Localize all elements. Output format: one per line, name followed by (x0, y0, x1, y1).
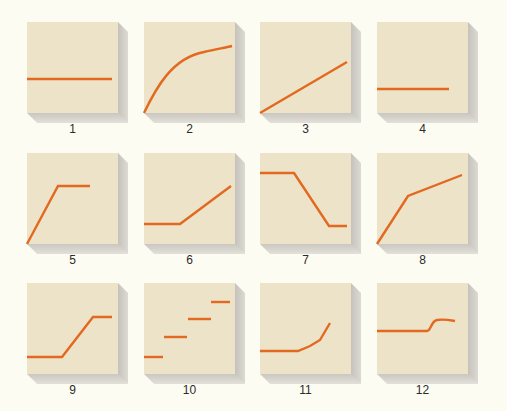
panel-1: 1 (27, 22, 118, 113)
two-slope-rise-graph (377, 153, 468, 244)
rise-plateau-graph (27, 153, 118, 244)
panel-label: 6 (144, 253, 235, 267)
panel-side (468, 153, 478, 254)
accelerating-rise-graph (260, 283, 351, 374)
graph-face (377, 22, 468, 113)
linear-increase-graph (260, 22, 351, 113)
flat-decline-flat-graph (260, 153, 351, 244)
panel-9: 9 (27, 283, 118, 374)
panel-10: 10 (144, 283, 235, 374)
panel-label: 4 (377, 122, 468, 136)
concave-curve-graph (144, 22, 235, 113)
graph-face (144, 283, 235, 374)
graph-face (144, 22, 235, 113)
panel-side (235, 22, 245, 123)
panel-side (468, 283, 478, 384)
graph-face (377, 153, 468, 244)
panel-label: 9 (27, 383, 118, 397)
panel-side (468, 22, 478, 123)
panel-side (235, 283, 245, 384)
panel-side (118, 22, 128, 123)
panel-5: 5 (27, 153, 118, 244)
panel-6: 6 (144, 153, 235, 244)
panel-label: 1 (27, 122, 118, 136)
panel-label: 5 (27, 253, 118, 267)
panel-label: 8 (377, 253, 468, 267)
panel-label: 12 (377, 383, 468, 397)
panel-label: 2 (144, 122, 235, 136)
panel-side (235, 153, 245, 254)
panel-12: 12 (377, 283, 468, 374)
panel-side (351, 283, 361, 384)
graph-face (27, 22, 118, 113)
small-jump-graph (377, 283, 468, 374)
horizontal-line-graph (27, 22, 118, 113)
panel-side (118, 153, 128, 254)
panel-side (351, 153, 361, 254)
panel-8: 8 (377, 153, 468, 244)
panel-7: 7 (260, 153, 351, 244)
panel-label: 10 (144, 383, 235, 397)
panel-label: 3 (260, 122, 351, 136)
graph-face (260, 22, 351, 113)
panel-side (118, 283, 128, 384)
graph-face (144, 153, 235, 244)
graph-face (260, 283, 351, 374)
panel-4: 4 (377, 22, 468, 113)
flat-then-rise-graph (144, 153, 235, 244)
panel-side (351, 22, 361, 123)
panel-2: 2 (144, 22, 235, 113)
graph-face (27, 153, 118, 244)
step-graph (144, 283, 235, 374)
flat-rise-flat-graph (27, 283, 118, 374)
panel-label: 11 (260, 383, 351, 397)
horizontal-line-graph (377, 22, 468, 113)
graph-face (27, 283, 118, 374)
panel-label: 7 (260, 253, 351, 267)
graph-face (377, 283, 468, 374)
panel-11: 11 (260, 283, 351, 374)
panel-3: 3 (260, 22, 351, 113)
graph-face (260, 153, 351, 244)
